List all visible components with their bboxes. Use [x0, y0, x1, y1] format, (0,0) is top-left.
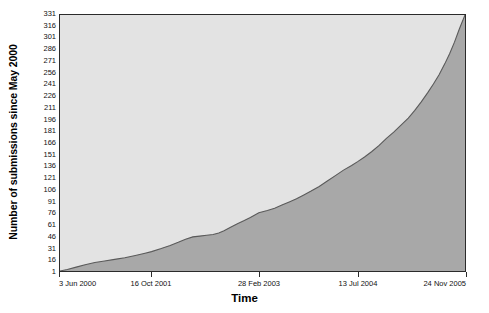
x-axis-tick-mark [358, 272, 359, 277]
y-axis-title: Number of submissions since May 2000 [7, 12, 19, 272]
y-axis-tick-label: 61 [30, 221, 56, 229]
y-axis-tick-label: 91 [30, 198, 56, 206]
y-axis-tick-label: 31 [30, 245, 56, 253]
y-axis-tick-label: 271 [30, 57, 56, 65]
y-axis-tick-label: 316 [30, 22, 56, 30]
y-axis-tick-label: 286 [30, 45, 56, 53]
y-axis-tick-label: 106 [30, 186, 56, 194]
y-axis-tick-labels: 1163146617691106121136151166181196211226… [28, 0, 56, 313]
x-axis-tick-label: 24 Nov 2005 [423, 279, 466, 288]
y-axis-tick-label: 256 [30, 69, 56, 77]
y-axis-tick-label: 121 [30, 174, 56, 182]
y-axis-tick-label: 46 [30, 233, 56, 241]
y-axis-tick-label: 136 [30, 162, 56, 170]
x-axis-tick-label: 3 Jun 2000 [59, 279, 96, 288]
y-axis-tick-label: 76 [30, 209, 56, 217]
x-axis-tick-mark [151, 272, 152, 277]
x-axis-title: Time [0, 292, 489, 304]
y-axis-tick-label: 151 [30, 151, 56, 159]
y-axis-tick-label: 196 [30, 116, 56, 124]
y-axis-tick-label: 241 [30, 80, 56, 88]
y-axis-tick-label: 331 [30, 10, 56, 18]
x-axis-tick-mark [59, 272, 60, 277]
x-axis-tick-label: 13 Jul 2004 [339, 279, 378, 288]
x-axis-tick-mark [466, 272, 467, 277]
y-axis-tick-label: 166 [30, 139, 56, 147]
y-axis-tick-label: 211 [30, 104, 56, 112]
area-chart-svg [60, 15, 465, 271]
y-axis-tick-label: 1 [30, 268, 56, 276]
y-axis-tick-label: 181 [30, 127, 56, 135]
chart-container: Number of submissions since May 2000 116… [0, 0, 489, 313]
x-axis-tick-mark [259, 272, 260, 277]
y-axis-tick-label: 301 [30, 33, 56, 41]
area-fill-path [60, 15, 465, 271]
plot-area [59, 14, 466, 272]
y-axis-tick-label: 226 [30, 92, 56, 100]
x-axis-tick-label: 16 Oct 2001 [131, 279, 172, 288]
x-axis-tick-label: 28 Feb 2003 [238, 279, 280, 288]
y-axis-tick-label: 16 [30, 256, 56, 264]
